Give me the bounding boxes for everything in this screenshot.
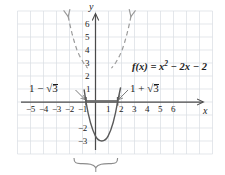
root-right-one: 1 [130, 82, 136, 94]
sqrt-icon-left: √3 [46, 83, 58, 94]
equals-sign: = [150, 61, 156, 72]
x-tick-neg2: −2 [65, 105, 74, 114]
y-tick-3: 3 [85, 59, 89, 68]
x-tick-neg1: −1 [78, 105, 87, 114]
x-tick-neg4: −4 [39, 105, 48, 114]
root-label-right: 1 + √3 [130, 83, 159, 94]
curve-solid [86, 88, 121, 141]
root-label-left: 1 − √3 [29, 83, 58, 94]
radical-bar [154, 84, 159, 85]
leader-left [76, 90, 86, 100]
y-tick-neg2: −2 [78, 124, 87, 133]
function-term-linear: − 2x [171, 61, 191, 72]
x-tick-5: 5 [158, 105, 162, 114]
y-tick-1: 1 [86, 85, 90, 94]
root-left-one: 1 [29, 82, 35, 94]
y-tick-4: 4 [85, 46, 89, 55]
radical-bar [53, 84, 58, 85]
function-exponent: 2 [164, 59, 168, 68]
y-tick-neg3: −3 [78, 137, 87, 146]
x-tick-6: 6 [171, 105, 175, 114]
x-tick-2: 2 [119, 105, 123, 114]
x-tick-4: 4 [145, 105, 149, 114]
y-axis-label: y [89, 2, 93, 12]
graph-figure: y x 6 5 4 3 2 1 −2 −3 −5 −4 −3 −2 −1 1 2… [0, 0, 225, 175]
y-tick-6: 6 [85, 20, 89, 29]
root-right-operator: + [138, 82, 144, 94]
x-tick-neg5: −5 [26, 105, 35, 114]
function-label: f(x) = x2 − 2x − 2 [132, 62, 207, 73]
x-tick-3: 3 [132, 105, 136, 114]
y-tick-2: 2 [85, 72, 89, 81]
y-tick-5: 5 [85, 33, 89, 42]
function-term-const: − 2 [193, 61, 207, 72]
function-name: f(x) [132, 61, 148, 72]
sqrt-icon-right: √3 [147, 83, 159, 94]
x-axis-label: x [203, 106, 207, 116]
root-left-operator: − [37, 82, 43, 94]
interval-brace [74, 158, 118, 168]
x-tick-neg3: −3 [52, 105, 61, 114]
x-tick-1: 1 [106, 105, 110, 114]
